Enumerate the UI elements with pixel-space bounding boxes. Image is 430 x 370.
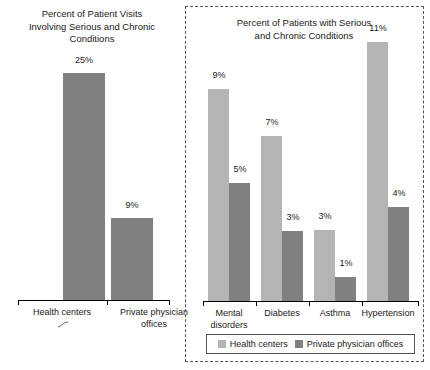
group-label-diabetes: Diabetes — [252, 308, 312, 320]
category-label-private-physician-offices-line2: offices — [141, 319, 167, 329]
group-label-mental-disorders-line2: disorders — [210, 320, 247, 330]
group-label-diabetes-line1: Diabetes — [264, 308, 300, 318]
group-label-hypertension-line1: Hypertension — [361, 308, 414, 318]
bar-label-health-centers: 25% — [54, 55, 114, 65]
legend-item-health-centers: Health centers — [218, 339, 288, 349]
category-label-private-physician-offices-line1: Private physician — [120, 307, 188, 317]
legend-label-private-physician-offices: Private physician offices — [307, 339, 403, 349]
bar-hypertension-private-physician-offices — [388, 207, 409, 301]
right-chart-axis-tick-2 — [309, 301, 310, 306]
bar-private-physician-offices — [111, 218, 153, 300]
bar-asthma-private-physician-offices — [335, 277, 356, 301]
bar-label-mental-disorders-health-centers: 9% — [199, 70, 239, 80]
bar-label-private-physician-offices: 9% — [102, 200, 162, 210]
group-label-mental-disorders-line1: Mental — [215, 308, 242, 318]
left-chart-plot-area: 25% 9% Health centers Private physician … — [0, 0, 184, 330]
bar-diabetes-private-physician-offices — [282, 231, 303, 301]
right-chart-legend: Health centers Private physician offices — [206, 334, 415, 354]
bar-label-asthma-health-centers: 3% — [305, 211, 345, 221]
left-chart-axis-tick-mid — [107, 300, 108, 305]
right-chart-x-axis — [203, 301, 419, 302]
bar-label-mental-disorders-private-physician-offices: 5% — [220, 164, 260, 174]
bar-label-diabetes-health-centers: 7% — [252, 117, 292, 127]
right-chart-axis-tick-4 — [418, 301, 419, 306]
bar-health-centers — [63, 73, 105, 300]
bar-label-hypertension-private-physician-offices: 4% — [379, 188, 419, 198]
right-chart-plot-area: 9% 5% 7% 3% 3% 1% 11% 4% — [186, 7, 425, 303]
category-label-health-centers-line1: Health centers — [33, 307, 91, 317]
bar-label-hypertension-health-centers: 11% — [358, 23, 398, 33]
group-label-asthma-line1: Asthma — [320, 308, 351, 318]
group-label-mental-disorders: Mental disorders — [199, 308, 259, 331]
bar-label-asthma-private-physician-offices: 1% — [326, 258, 366, 268]
bar-mental-disorders-health-centers — [208, 89, 229, 301]
left-chart-axis-tick-start — [18, 300, 19, 305]
right-chart-axis-tick-0 — [203, 301, 204, 306]
right-chart-axis-tick-1 — [256, 301, 257, 306]
bar-mental-disorders-private-physician-offices — [229, 183, 250, 301]
bar-hypertension-health-centers — [367, 42, 388, 301]
category-label-health-centers: Health centers — [22, 307, 102, 319]
legend-swatch-health-centers-icon — [218, 340, 226, 348]
pointer-squiggle-icon — [57, 321, 69, 328]
legend-label-health-centers: Health centers — [230, 339, 288, 349]
left-chart-panel: Percent of Patient Visits Involving Seri… — [0, 0, 184, 370]
right-chart-panel: Percent of Patients with Serious and Chr… — [185, 6, 424, 362]
right-chart-axis-tick-3 — [362, 301, 363, 306]
legend-swatch-private-physician-offices-icon — [295, 340, 303, 348]
group-label-hypertension: Hypertension — [354, 308, 422, 320]
left-chart-axis-tick-end — [169, 300, 170, 305]
left-chart-x-axis — [18, 300, 170, 301]
legend-item-private-physician-offices: Private physician offices — [295, 339, 403, 349]
